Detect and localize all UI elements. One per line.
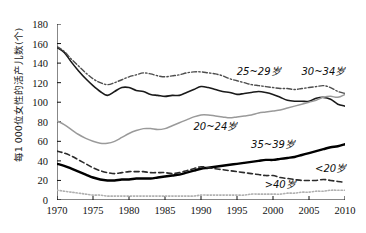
y-tick-40: 40: [20, 155, 48, 166]
y-tick-120: 120: [20, 77, 48, 88]
x-axis-tick-labels: 197019751980198519901995200020052010: [0, 203, 366, 223]
x-tick-1995: 1995: [227, 205, 248, 216]
series-annotation-3: 35~39岁: [251, 136, 295, 151]
x-tick-1970: 1970: [47, 205, 68, 216]
x-tick-1980: 1980: [119, 205, 140, 216]
y-tick-60: 60: [20, 136, 48, 147]
y-axis-tick-labels: 020406080100120140160180: [20, 0, 48, 233]
y-tick-140: 140: [20, 58, 48, 69]
x-tick-1985: 1985: [155, 205, 176, 216]
series-annotation-4: <20岁: [315, 159, 346, 174]
x-tick-2000: 2000: [263, 205, 284, 216]
fertility-rate-line-chart: 每1 000位女性的活产儿数(个) 0204060801001201401601…: [0, 0, 366, 233]
series-line-5: [57, 190, 345, 196]
x-tick-1990: 1990: [191, 205, 212, 216]
series-annotation-2: 20~24岁: [193, 117, 237, 132]
x-tick-2010: 2010: [335, 205, 356, 216]
x-tick-2005: 2005: [299, 205, 320, 216]
y-tick-20: 20: [20, 175, 48, 186]
y-tick-160: 160: [20, 38, 48, 49]
y-tick-180: 180: [20, 19, 48, 30]
series-annotation-1: 30~34岁: [301, 62, 345, 77]
y-tick-80: 80: [20, 116, 48, 127]
series-canvas: [57, 24, 345, 200]
axis-lines: [57, 24, 345, 200]
x-tick-1975: 1975: [83, 205, 104, 216]
series-annotation-5: >40岁: [265, 176, 296, 191]
plot-area: [57, 24, 345, 200]
series-line-3: [57, 144, 345, 180]
y-tick-100: 100: [20, 97, 48, 108]
series-annotation-0: 25~29岁: [237, 62, 281, 77]
